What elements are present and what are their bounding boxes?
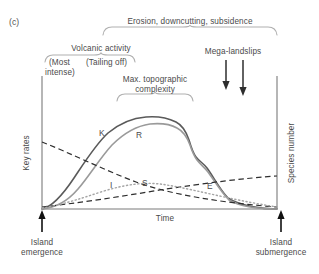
annotation-erosion: Erosion, downcutting, subsidence — [127, 17, 252, 27]
y-axis-left-label: Key rates — [22, 118, 32, 188]
island-emergence-line-1: Island — [31, 238, 53, 247]
annotation-intense: intense) — [45, 68, 75, 78]
arrow-landslip-2-head — [239, 87, 246, 96]
island-submergence-line-2: submergence — [256, 248, 307, 257]
mega-landslip-arrows — [222, 60, 246, 96]
curve-label-S: S — [142, 178, 148, 188]
annotation-mega-landslips: Mega-landslips — [205, 47, 261, 57]
curve-label-R: R — [136, 130, 142, 140]
curve-label-E: E — [207, 181, 213, 191]
arrow-island-emergence-head — [38, 210, 45, 219]
x-axis-label: Time — [156, 214, 174, 224]
annotation-max-topographic-complexity: Max. topographic complexity — [123, 75, 187, 95]
curve-E — [42, 176, 277, 207]
annotation-island-emergence: Island emergence — [21, 238, 63, 258]
annotation-island-submergence: Island submergence — [256, 238, 307, 258]
max-topo-line-2: complexity — [135, 85, 175, 94]
curve-label-I: I — [110, 180, 112, 190]
y-axis-right-label: Species number — [287, 113, 297, 193]
arrow-island-submergence-head — [277, 210, 284, 219]
island-submergence-line-1: Island — [270, 238, 292, 247]
curve-label-K: K — [99, 128, 105, 138]
max-topo-line-1: Max. topographic — [123, 75, 187, 84]
arrow-landslip-1-head — [222, 81, 229, 90]
panel-label: (c) — [9, 17, 19, 27]
annotation-tailing-off: (Tailing off) — [86, 58, 127, 68]
annotation-volcanic-activity: Volcanic activity — [71, 44, 131, 54]
curve-R — [42, 124, 277, 209]
plot-area — [0, 0, 319, 274]
curve-K — [42, 117, 277, 209]
annotation-most: (Most — [49, 58, 70, 68]
island-emergence-line-2: emergence — [21, 248, 63, 257]
figure-panel-c: (c) Erosion, downcutting, subsidence Vol… — [0, 0, 319, 274]
